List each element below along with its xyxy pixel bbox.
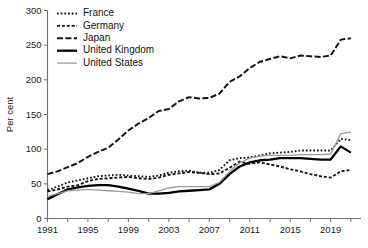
y-axis-title: Per cent bbox=[4, 96, 15, 132]
x-tick-label: 1999 bbox=[118, 224, 139, 235]
x-axis: 19911995199920032007201120152019 bbox=[37, 219, 361, 235]
legend-label: Germany bbox=[83, 20, 124, 31]
x-tick-label: 2003 bbox=[158, 224, 179, 235]
legend-label: France bbox=[83, 7, 115, 18]
legend-label: Japan bbox=[83, 32, 110, 43]
x-tick-label: 2007 bbox=[199, 224, 220, 235]
line-chart: 050100150200250300 199119951999200320072… bbox=[0, 0, 368, 248]
x-tick-label: 2019 bbox=[320, 224, 341, 235]
y-axis: 050100150200250300 bbox=[26, 5, 48, 224]
y-tick-label: 250 bbox=[26, 39, 42, 50]
y-axis-label: Per cent bbox=[4, 96, 15, 132]
x-tick-label: 2015 bbox=[280, 224, 301, 235]
x-tick-label: 1991 bbox=[37, 224, 58, 235]
legend-label: United States bbox=[83, 57, 143, 68]
y-tick-label: 150 bbox=[26, 109, 42, 120]
y-tick-label: 50 bbox=[31, 178, 42, 189]
y-tick-label: 0 bbox=[36, 213, 41, 224]
x-tick-label: 1995 bbox=[77, 224, 98, 235]
legend-label: United Kingdom bbox=[83, 44, 154, 55]
chart-legend: FranceGermanyJapanUnited KingdomUnited S… bbox=[57, 7, 154, 68]
y-tick-label: 100 bbox=[26, 143, 42, 154]
y-tick-label: 200 bbox=[26, 74, 42, 85]
series-line-france bbox=[48, 139, 351, 190]
y-tick-label: 300 bbox=[26, 5, 42, 16]
x-tick-label: 2011 bbox=[240, 224, 260, 235]
chart-container: 050100150200250300 199119951999200320072… bbox=[0, 0, 368, 248]
